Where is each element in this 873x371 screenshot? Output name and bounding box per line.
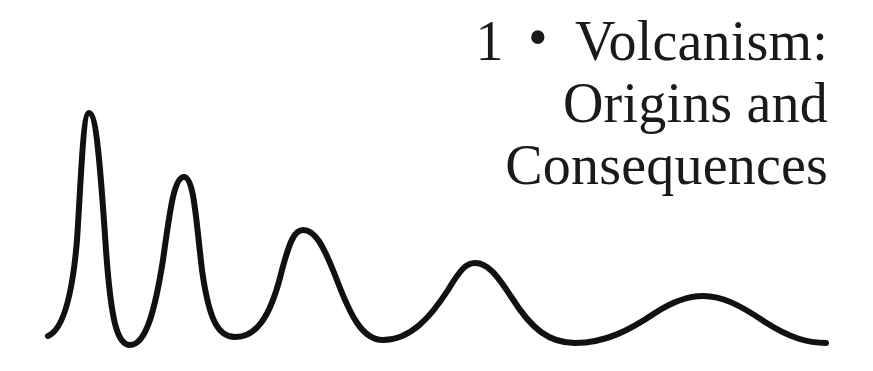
chapter-heading: 1 • Volcanism: Origins and Consequences bbox=[476, 10, 828, 196]
chapter-title-line-3: Consequences bbox=[476, 134, 828, 196]
chapter-number: 1 bbox=[476, 10, 504, 72]
bullet-separator: • bbox=[528, 6, 548, 68]
chapter-title-line-2: Origins and bbox=[476, 72, 828, 134]
chapter-title-part-1: Volcanism: bbox=[575, 10, 828, 72]
chapter-title-line-1: 1 • Volcanism: bbox=[476, 10, 828, 72]
